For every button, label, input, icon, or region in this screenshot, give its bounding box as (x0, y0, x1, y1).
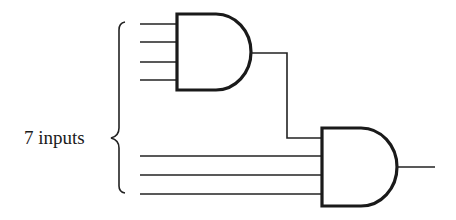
gate-1-output-wire (251, 53, 322, 138)
and-gate-2 (322, 128, 397, 206)
gate-2-inputs (140, 156, 322, 194)
input-brace (111, 22, 125, 193)
gate-1-inputs (140, 24, 177, 80)
logic-circuit-diagram: 7 inputs (0, 0, 456, 220)
inputs-label: 7 inputs (24, 127, 85, 148)
and-gate-1 (177, 14, 251, 90)
